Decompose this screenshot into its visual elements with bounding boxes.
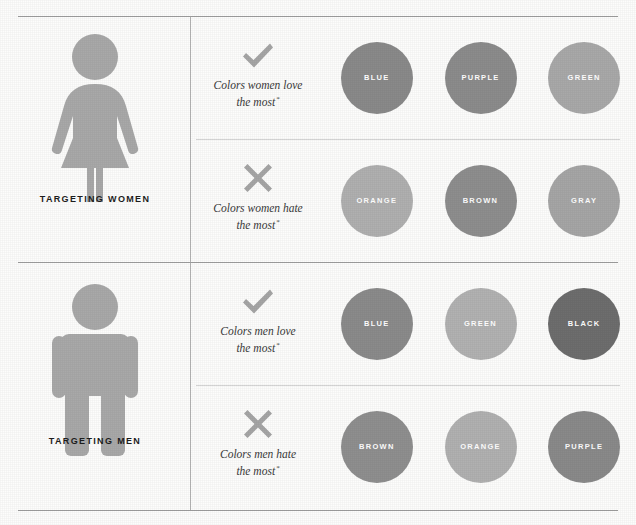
swatch-label: BLACK (568, 319, 601, 328)
swatch-label: BROWN (359, 442, 395, 451)
persona-label-men: TARGETING MEN (0, 436, 190, 446)
swatch-cell[interactable]: ORANGE (429, 411, 533, 483)
swatch-label: PURPLE (461, 73, 499, 82)
swatch-cell[interactable]: ORANGE (325, 165, 429, 237)
male-pictogram-icon (39, 282, 151, 458)
bottom-divider (18, 510, 618, 511)
color-swatch[interactable]: GREEN (548, 42, 620, 114)
cross-icon (191, 163, 325, 193)
caption-text-women-hate: Colors women hate the most* (191, 200, 325, 233)
row-men-hate: Colors men hate the most* BROWN ORANGE P… (191, 385, 636, 508)
footnote-marker: * (276, 464, 280, 472)
swatch-cell[interactable]: BLUE (325, 288, 429, 360)
swatch-cell[interactable]: PURPLE (532, 411, 636, 483)
row-women-love: Colors women love the most* BLUE PURPLE … (191, 16, 636, 139)
caption-line-1: Colors men hate (220, 448, 296, 460)
swatch-label: GREEN (568, 73, 601, 82)
color-swatch[interactable]: BROWN (341, 411, 413, 483)
row-men-love: Colors men love the most* BLUE GREEN BLA… (191, 262, 636, 385)
swatch-cell[interactable]: GREEN (429, 288, 533, 360)
color-swatch[interactable]: PURPLE (445, 42, 517, 114)
checkmark-icon (191, 40, 325, 70)
caption-men-hate: Colors men hate the most* (191, 409, 325, 483)
swatch-cell[interactable]: GRAY (532, 165, 636, 237)
swatch-cell[interactable]: BROWN (325, 411, 429, 483)
caption-text-men-love: Colors men love the most* (191, 323, 325, 356)
cross-icon (191, 409, 325, 439)
color-swatch[interactable]: BLUE (341, 288, 413, 360)
footnote-marker: * (276, 341, 280, 349)
color-swatch[interactable]: ORANGE (445, 411, 517, 483)
swatch-label: BLUE (364, 319, 390, 328)
swatch-cell[interactable]: BROWN (429, 165, 533, 237)
caption-line-1: Colors men love (220, 325, 295, 337)
checkmark-icon (191, 286, 325, 316)
persona-label-women: TARGETING WOMEN (0, 194, 190, 204)
color-swatch[interactable]: BLACK (548, 288, 620, 360)
caption-line-1: Colors women love (214, 79, 303, 91)
swatch-label: ORANGE (460, 442, 501, 451)
color-swatch[interactable]: BROWN (445, 165, 517, 237)
caption-line-2: the most (236, 96, 275, 108)
caption-women-hate: Colors women hate the most* (191, 163, 325, 237)
persona-men: TARGETING MEN (0, 262, 190, 510)
color-swatch[interactable]: ORANGE (341, 165, 413, 237)
swatch-label: PURPLE (565, 442, 603, 451)
row-women-hate: Colors women hate the most* ORANGE BROWN… (191, 139, 636, 262)
caption-text-women-love: Colors women love the most* (191, 77, 325, 110)
persona-women: TARGETING WOMEN (0, 16, 190, 262)
caption-men-love: Colors men love the most* (191, 286, 325, 360)
caption-line-2: the most (236, 465, 275, 477)
caption-text-men-hate: Colors men hate the most* (191, 446, 325, 479)
swatch-label: GRAY (571, 196, 597, 205)
swatch-cell[interactable]: BLUE (325, 42, 429, 114)
color-swatch[interactable]: GRAY (548, 165, 620, 237)
swatch-label: BLUE (364, 73, 390, 82)
caption-line-2: the most (236, 342, 275, 354)
color-swatch[interactable]: PURPLE (548, 411, 620, 483)
caption-line-1: Colors women hate (213, 202, 302, 214)
swatch-cell[interactable]: GREEN (532, 42, 636, 114)
infographic-canvas: TARGETING WOMEN TARGETING MEN (0, 0, 636, 525)
footnote-marker: * (276, 218, 280, 226)
color-swatch[interactable]: GREEN (445, 288, 517, 360)
swatch-cell[interactable]: PURPLE (429, 42, 533, 114)
swatch-label: BROWN (463, 196, 499, 205)
caption-line-2: the most (236, 219, 275, 231)
swatch-cell[interactable]: BLACK (532, 288, 636, 360)
footnote-marker: * (276, 95, 280, 103)
color-swatch[interactable]: BLUE (341, 42, 413, 114)
female-pictogram-icon (36, 32, 154, 204)
swatch-label: GREEN (464, 319, 497, 328)
caption-women-love: Colors women love the most* (191, 40, 325, 114)
swatch-label: ORANGE (356, 196, 397, 205)
